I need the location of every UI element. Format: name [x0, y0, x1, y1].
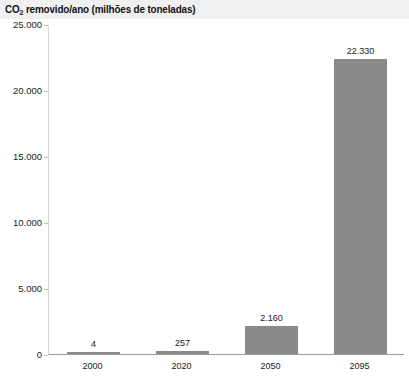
- y-axis-tick-label: 0: [0, 350, 42, 360]
- bar[interactable]: [334, 59, 387, 354]
- bar-value-label: 22.330: [335, 46, 385, 56]
- bar[interactable]: [156, 351, 209, 354]
- bar-value-label: 2.160: [246, 313, 296, 323]
- y-axis-tick-label: 10.000: [0, 218, 42, 228]
- y-axis-tick-label: 15.000: [0, 152, 42, 162]
- bar-group: 4: [67, 24, 120, 354]
- chart-figure: CO2 removido/ano (milhões de toneladas) …: [0, 0, 409, 380]
- bar-value-label: 257: [157, 338, 207, 348]
- y-axis-tick-label: 5.000: [0, 284, 42, 294]
- bar[interactable]: [245, 326, 298, 355]
- bar-group: 2.160: [245, 24, 298, 354]
- x-axis-tick-label: 2000: [50, 360, 135, 371]
- y-axis-tick-label: 20.000: [0, 86, 42, 96]
- chart-title: CO2 removido/ano (milhões de toneladas): [5, 2, 195, 20]
- x-axis-tick-label: 2020: [139, 360, 224, 371]
- chart-title-prefix: CO: [5, 3, 20, 15]
- bar-group: 22.330: [334, 24, 387, 354]
- x-axis-tick-label: 2095: [317, 360, 402, 371]
- y-axis-tick-label: 25.000: [0, 20, 42, 30]
- bar-value-label: 4: [68, 339, 118, 349]
- chart-title-suffix: removido/ano (milhões de toneladas): [23, 3, 195, 15]
- bar[interactable]: [67, 352, 120, 354]
- plot-area: 42572.16022.330: [48, 25, 404, 355]
- bar-group: 257: [156, 24, 209, 354]
- y-axis-tick-mark: [44, 355, 48, 356]
- x-axis-tick-label: 2050: [228, 360, 313, 371]
